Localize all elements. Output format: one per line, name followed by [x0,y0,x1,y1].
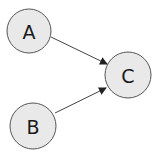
directed-graph-diagram: A B C [0,0,161,158]
edge-a-to-c [51,37,107,64]
node-b-label: B [26,116,39,138]
node-b: B [10,103,56,149]
node-a: A [7,9,51,53]
node-c-label: C [121,65,134,87]
node-c: C [105,52,151,98]
node-a-label: A [23,21,36,43]
edge-b-to-c [55,88,106,113]
